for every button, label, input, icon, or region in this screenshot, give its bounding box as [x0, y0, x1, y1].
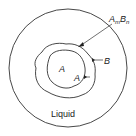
compound-label: AmBn: [108, 14, 130, 25]
diagram-canvas: AmBn B A A Liquid: [0, 0, 136, 136]
compound-boundary: [35, 43, 95, 98]
a-arrow-icon: [84, 75, 87, 79]
b-label: B: [104, 56, 110, 66]
a-center-label: A: [58, 64, 65, 74]
compound-arrow-icon: [78, 42, 84, 47]
compound-leader-line: [80, 24, 112, 46]
liquid-label: Liquid: [51, 109, 75, 119]
a-arrow-label: A: [73, 73, 80, 83]
